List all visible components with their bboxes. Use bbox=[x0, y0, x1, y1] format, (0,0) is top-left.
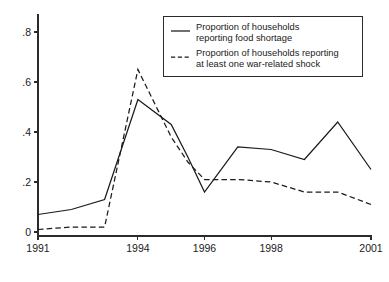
x-tick-label: 1998 bbox=[259, 242, 283, 254]
legend-entry-1-line2: at least one war-related shock bbox=[196, 59, 320, 69]
y-tick-label: 0 bbox=[25, 226, 31, 238]
y-tick-label: .2 bbox=[22, 176, 31, 188]
x-tick-label: 2001 bbox=[359, 242, 383, 254]
y-tick-label: .6 bbox=[22, 76, 31, 88]
x-tick-label: 1996 bbox=[193, 242, 217, 254]
line-chart: 0.2.4.6.8 19911994199619982001 Proportio… bbox=[0, 0, 389, 282]
x-tick-label: 1991 bbox=[26, 242, 50, 254]
legend-entry-0-line1: Proportion of households bbox=[196, 22, 300, 32]
x-tick-label: 1994 bbox=[126, 242, 150, 254]
legend-entry-0-line2: reporting food shortage bbox=[196, 33, 292, 43]
y-tick-label: .4 bbox=[22, 126, 31, 138]
chart-container: 0.2.4.6.8 19911994199619982001 Proportio… bbox=[0, 0, 389, 282]
chart-legend: Proportion of households reporting food … bbox=[164, 17, 363, 77]
legend-entry-1-line1: Proportion of households reporting bbox=[196, 48, 339, 58]
y-tick-label: .8 bbox=[22, 26, 31, 38]
